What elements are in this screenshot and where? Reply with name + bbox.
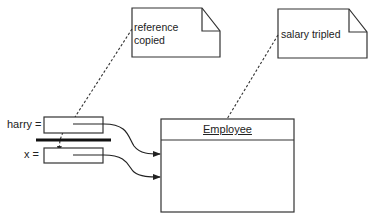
harry-variable-box <box>44 117 103 133</box>
dashed-connector-salary-tripled <box>227 35 278 119</box>
note-line-1: reference <box>134 21 178 34</box>
x-label: x = <box>24 148 39 161</box>
note-salary-tripled-text: salary tripled <box>281 28 341 41</box>
harry-label: harry = <box>7 118 42 131</box>
note-line-2: copied <box>134 34 178 47</box>
dashed-connector-reference-copied <box>75 29 132 117</box>
note-reference-copied-text: reference copied <box>134 21 178 47</box>
employee-class-name: Employee <box>161 123 294 136</box>
separator-bar <box>36 139 111 142</box>
